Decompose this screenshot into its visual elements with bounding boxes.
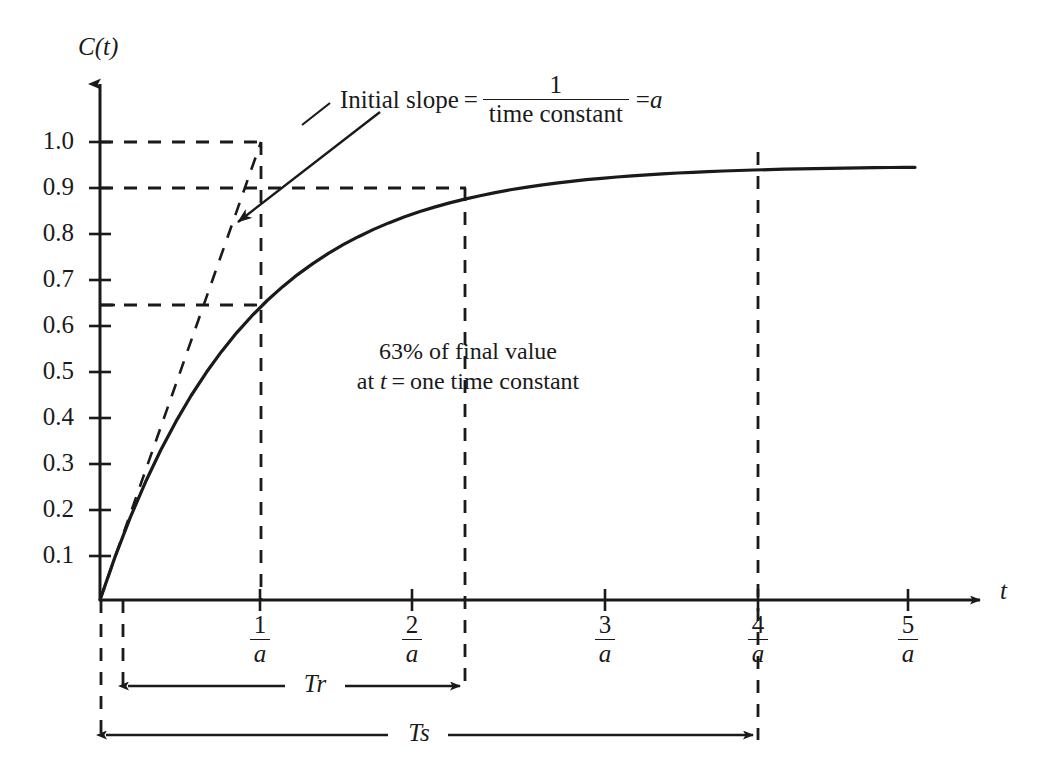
y-tick-label-0.4: 0.4	[18, 404, 74, 430]
y-tick-label-1.0: 1.0	[18, 128, 74, 154]
x-axis-label: t	[1000, 578, 1007, 604]
time-constant-note-line1: 63% of final value	[318, 336, 618, 366]
initial-slope-equals: =	[636, 86, 650, 113]
x-tick-3-denominator: a	[581, 641, 629, 666]
x-tick-3-numerator: 3	[581, 612, 629, 638]
y-tick-label-0.2: 0.2	[18, 496, 74, 522]
y-tick-label-0.9: 0.9	[18, 174, 74, 200]
x-tick-label-5-over-a: 5 a	[884, 612, 932, 666]
time-constant-note: 63% of final value at t = one time const…	[318, 336, 618, 396]
x-tick-2-numerator: 2	[388, 612, 436, 638]
slope-callout-tail	[302, 103, 330, 125]
x-tick-5-denominator: a	[884, 641, 932, 666]
y-tick-label-0.6: 0.6	[18, 312, 74, 338]
settling-time-label: Ts	[392, 720, 446, 746]
x-tick-label-3-over-a: 3 a	[581, 612, 629, 666]
note-line2-variable: t	[380, 368, 387, 394]
x-tick-1-numerator: 1	[236, 612, 284, 638]
y-tick-label-0.7: 0.7	[18, 266, 74, 292]
x-tick-4-numerator: 4	[734, 612, 782, 638]
y-axis-ticks	[89, 142, 115, 556]
x-tick-label-2-over-a: 2 a	[388, 612, 436, 666]
y-tick-label-0.5: 0.5	[18, 358, 74, 384]
initial-slope-fraction: 1 time constant	[483, 72, 629, 128]
initial-slope-numerator: 1	[544, 72, 569, 99]
initial-slope-denominator: time constant	[483, 100, 629, 127]
x-tick-2-denominator: a	[388, 641, 436, 666]
x-tick-label-4-over-a: 4 a	[734, 612, 782, 666]
y-axis-label: C(t)	[78, 34, 118, 60]
initial-slope-value: a	[650, 86, 663, 113]
x-tick-1-denominator: a	[236, 641, 284, 666]
slope-callout-leader-line	[238, 112, 380, 222]
initial-slope-result: =a	[636, 86, 663, 114]
note-line2-suffix: = one time constant	[387, 368, 579, 394]
note-line2-prefix: at	[357, 368, 380, 394]
initial-slope-text: Initial slope =	[340, 86, 478, 114]
y-tick-label-0.3: 0.3	[18, 450, 74, 476]
initial-slope-annotation: Initial slope = 1 time constant =a	[340, 72, 662, 128]
figure-canvas: C(t) t 1.0 0.9 0.8 0.7 0.6 0.5 0.4 0.3 0…	[0, 0, 1050, 775]
time-constant-note-line2: at t = one time constant	[318, 366, 618, 396]
x-tick-4-denominator: a	[734, 641, 782, 666]
y-tick-label-0.1: 0.1	[18, 542, 74, 568]
x-tick-5-numerator: 5	[884, 612, 932, 638]
y-tick-label-0.8: 0.8	[18, 220, 74, 246]
rise-time-label: Tr	[288, 671, 342, 697]
x-tick-label-1-over-a: 1 a	[236, 612, 284, 666]
